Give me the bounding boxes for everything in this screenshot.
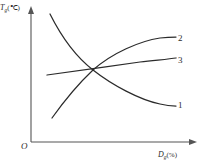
- x-axis-label: Dg(%): [158, 151, 177, 160]
- curve-label-1: 1: [178, 101, 183, 110]
- y-axis-label: Tg(℃): [0, 4, 20, 13]
- y-axis-arrow-icon: [28, 6, 34, 14]
- curve-label-2: 2: [178, 34, 183, 43]
- origin-label: O: [21, 142, 28, 151]
- curve-label-3: 3: [178, 56, 183, 65]
- plot-area: [0, 0, 203, 166]
- y-axis-unit: (℃): [7, 4, 20, 12]
- curve-series-3: [47, 58, 176, 75]
- curve-series-2: [52, 37, 176, 118]
- x-axis-unit: (%): [167, 151, 178, 159]
- x-axis-arrow-icon: [189, 139, 197, 145]
- chart-figure: Tg(℃) Dg(%) O 2 3 1: [0, 0, 203, 166]
